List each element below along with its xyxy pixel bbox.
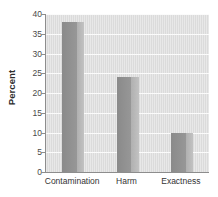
bar-side-face — [77, 22, 84, 172]
y-axis-tick-label: 20 — [22, 89, 42, 98]
bar-front-face — [171, 133, 186, 173]
x-axis-category-label: Exactness — [131, 176, 218, 186]
y-axis-tick-label: 5 — [22, 148, 42, 157]
y-axis-title: Percent — [6, 52, 17, 124]
y-axis-tick-label: 15 — [22, 109, 42, 118]
bar-front-face — [117, 77, 132, 172]
bar-chart: Percent 0510152025303540 ContaminationHa… — [0, 0, 218, 197]
bar-side-face — [131, 77, 138, 172]
bar — [62, 22, 84, 172]
y-axis-tick-label: 25 — [22, 69, 42, 78]
bar-front-face — [62, 22, 77, 172]
plot-area — [45, 14, 209, 173]
y-axis-tick-label: 35 — [22, 30, 42, 39]
bar — [117, 77, 139, 172]
bar-side-face — [186, 133, 193, 173]
gridline — [46, 14, 209, 15]
y-axis-tick-label: 30 — [22, 50, 42, 59]
bar — [171, 133, 193, 173]
y-axis-tick-label: 40 — [22, 10, 42, 19]
y-axis-tick-label: 10 — [22, 129, 42, 138]
